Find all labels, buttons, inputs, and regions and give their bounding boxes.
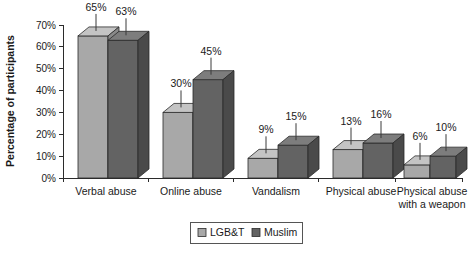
value-label: 10% xyxy=(435,121,456,133)
bar-front-face xyxy=(248,158,278,178)
category-label: with a weapon xyxy=(397,198,465,210)
y-axis-tick-label: 70% xyxy=(36,20,56,31)
y-axis-tick-label: 10% xyxy=(36,151,56,162)
value-label: 13% xyxy=(340,115,361,127)
legend-swatch xyxy=(252,229,260,237)
category-label: Physical abuse xyxy=(326,185,397,197)
chart-legend: LGB&TMuslim xyxy=(190,222,302,243)
y-axis-title: Percentage of participants xyxy=(4,35,16,167)
value-label: 63% xyxy=(115,5,136,17)
y-axis-tick-label: 60% xyxy=(36,41,56,52)
bar-front-face xyxy=(193,80,223,178)
bar-chart-figure: 0%10%20%30%40%50%60%70% 65%63%30%45%9%15… xyxy=(0,0,471,254)
category-label: Physical abuse xyxy=(397,185,468,197)
plot-background xyxy=(0,0,471,254)
legend-label: Muslim xyxy=(264,226,298,238)
bar-side-face xyxy=(138,31,149,178)
category-label: Online abuse xyxy=(160,185,222,197)
y-axis-title-text: Percentage of participants xyxy=(4,35,16,167)
y-axis-tick-label: 50% xyxy=(36,63,56,74)
value-label: 15% xyxy=(285,110,306,122)
legend-swatch xyxy=(198,229,206,237)
y-axis-tick-label: 30% xyxy=(36,107,56,118)
value-label: 16% xyxy=(370,108,391,120)
y-axis-tick-label: 40% xyxy=(36,85,56,96)
bar-front-face xyxy=(363,143,393,178)
category-label: Vandalism xyxy=(252,185,300,197)
bar-muslim xyxy=(108,31,149,178)
category-label: Verbal abuse xyxy=(75,185,136,197)
bar-front-face xyxy=(333,150,363,178)
y-axis-tick-label: 0% xyxy=(42,173,57,184)
bar-front-face xyxy=(278,145,308,178)
bar-muslim xyxy=(430,147,467,178)
value-label: 65% xyxy=(85,1,106,13)
value-label: 6% xyxy=(412,130,427,142)
bar-side-face xyxy=(223,71,234,178)
value-label: 45% xyxy=(200,45,221,57)
bar-front-face xyxy=(430,156,456,178)
legend-label: LGB&T xyxy=(210,226,245,238)
bar-muslim xyxy=(363,134,404,178)
bar-front-face xyxy=(108,40,138,178)
y-axis-tick-label: 20% xyxy=(36,129,56,140)
bar-muslim xyxy=(193,71,234,178)
bar-front-face xyxy=(163,112,193,178)
bar-muslim xyxy=(278,136,319,178)
value-label: 30% xyxy=(170,77,191,89)
bar-front-face xyxy=(404,165,430,178)
value-label: 9% xyxy=(258,123,273,135)
chart-canvas: 0%10%20%30%40%50%60%70% 65%63%30%45%9%15… xyxy=(0,0,471,254)
bar-front-face xyxy=(78,36,108,178)
